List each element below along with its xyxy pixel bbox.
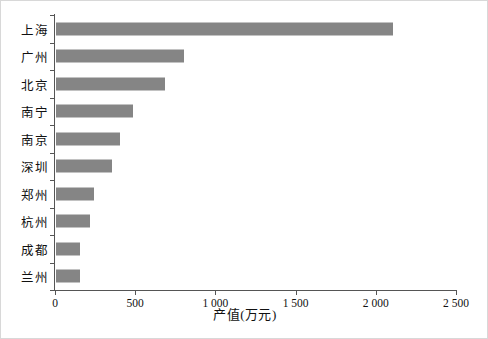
x-axis-tick (376, 290, 377, 295)
y-axis-tick (50, 15, 55, 16)
plot-area: 上海广州北京南宁南京深圳郑州杭州成都兰州05001 0001 5002 0002… (55, 15, 456, 290)
bar (56, 22, 393, 35)
bar-row: 郑州 (55, 180, 456, 208)
bar-row: 深圳 (55, 153, 456, 181)
y-axis-tick (50, 153, 55, 154)
y-axis-tick (50, 263, 55, 264)
bar-row: 杭州 (55, 208, 456, 236)
category-label: 广州 (21, 47, 48, 66)
category-label: 北京 (21, 74, 48, 93)
bar-row: 兰州 (55, 263, 456, 291)
y-axis-tick (50, 235, 55, 236)
y-axis-tick (50, 125, 55, 126)
category-label: 深圳 (21, 157, 48, 176)
category-label: 南京 (21, 129, 48, 148)
bar (56, 50, 184, 63)
bar (56, 187, 94, 200)
bar (56, 132, 120, 145)
x-axis-line (54, 290, 457, 291)
x-axis-tick (456, 290, 457, 295)
category-label: 成都 (21, 239, 48, 258)
bar-row: 广州 (55, 43, 456, 71)
y-axis-tick (50, 43, 55, 44)
bar (56, 105, 133, 118)
category-label: 南宁 (21, 102, 48, 121)
y-axis-tick (50, 70, 55, 71)
bar-row: 南京 (55, 125, 456, 153)
y-axis-tick (50, 180, 55, 181)
category-label: 兰州 (21, 267, 48, 286)
x-axis-tick (296, 290, 297, 295)
bar (56, 270, 80, 283)
bar (56, 215, 90, 228)
category-label: 郑州 (21, 184, 48, 203)
bar-chart-figure: 上海广州北京南宁南京深圳郑州杭州成都兰州05001 0001 5002 0002… (0, 0, 488, 339)
bar-row: 成都 (55, 235, 456, 263)
y-axis-tick (50, 98, 55, 99)
x-axis-tick (215, 290, 216, 295)
x-axis-tick (135, 290, 136, 295)
x-axis-title: 产值(万元) (1, 304, 488, 323)
bar (56, 160, 112, 173)
bar-row: 上海 (55, 15, 456, 43)
bar (56, 77, 165, 90)
bar (56, 242, 80, 255)
category-label: 杭州 (21, 212, 48, 231)
y-axis-tick (50, 208, 55, 209)
category-label: 上海 (21, 19, 48, 38)
x-axis-tick (55, 290, 56, 295)
bar-row: 南宁 (55, 98, 456, 126)
bar-row: 北京 (55, 70, 456, 98)
